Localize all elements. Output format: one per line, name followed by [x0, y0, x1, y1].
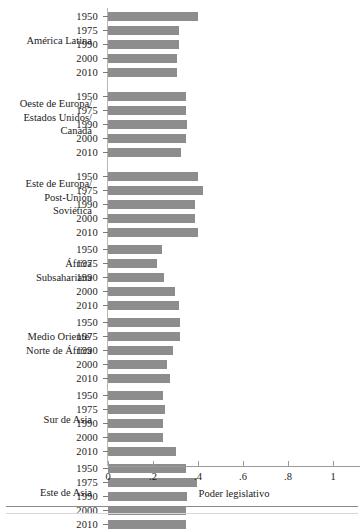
bar-row: 2010 [0, 518, 364, 532]
x-tick [243, 461, 244, 467]
bar-row: 1950 [0, 90, 364, 104]
year-label: 2010 [38, 372, 98, 386]
bar [108, 318, 180, 327]
bar-row: 2010 [0, 445, 364, 459]
bar-group: Medio Oriente/ Norte de África 1950 1975… [0, 316, 364, 386]
year-label: 1975 [38, 184, 98, 198]
bar-row: 1975 [0, 104, 364, 118]
bar [108, 520, 186, 529]
year-label: 2010 [38, 66, 98, 80]
bar-row: 1975 [0, 24, 364, 38]
year-label: 1975 [38, 330, 98, 344]
bar [108, 40, 179, 49]
x-tick [288, 461, 289, 467]
bar-row: 1975 [0, 330, 364, 344]
bar [108, 106, 186, 115]
year-label: 1990 [38, 118, 98, 132]
bar [108, 214, 195, 223]
bar-row: 2000 [0, 132, 364, 146]
bar-group: Sur de Asia 1950 1975 1990 2000 [0, 389, 364, 459]
bar-row: 2010 [0, 226, 364, 240]
bar-group: Este de Europa/ Post-Unión Soviética 195… [0, 170, 364, 240]
x-tick-label: .8 [268, 470, 308, 483]
year-label: 2000 [38, 132, 98, 146]
bar [108, 301, 179, 310]
bar [108, 374, 170, 383]
bar-row: 1990 [0, 417, 364, 431]
bar [108, 12, 198, 21]
bar-row: 1990 [0, 344, 364, 358]
year-label: 1975 [38, 24, 98, 38]
bar [108, 419, 163, 428]
bar-row: 2010 [0, 146, 364, 160]
bar [108, 346, 173, 355]
bar [108, 68, 177, 77]
bar-row: 2000 [0, 431, 364, 445]
year-label: 1990 [38, 417, 98, 431]
bar-row: 1990 [0, 271, 364, 285]
bar-row: 2000 [0, 212, 364, 226]
year-label: 2010 [38, 299, 98, 313]
year-label: 1950 [38, 389, 98, 403]
bar [108, 54, 177, 63]
x-tick [198, 461, 199, 467]
bar [108, 391, 163, 400]
x-tick [333, 461, 334, 467]
bar [108, 134, 186, 143]
bar-group: Oeste de Europa/ Estados Unidos/ Canadá … [0, 90, 364, 160]
year-label: 1990 [38, 490, 98, 504]
year-label: 2000 [38, 212, 98, 226]
x-tick-label: .4 [178, 470, 218, 483]
bar [108, 447, 176, 456]
bar [108, 120, 187, 129]
year-label: 1975 [38, 104, 98, 118]
bar [108, 148, 181, 157]
bar [108, 186, 203, 195]
bar-row: 1990 [0, 198, 364, 212]
year-label: 2010 [38, 518, 98, 532]
bar [108, 273, 164, 282]
year-label: 2000 [38, 285, 98, 299]
bar-row: 1975 [0, 403, 364, 417]
year-label: 1975 [38, 257, 98, 271]
footer-divider-secondary [6, 513, 358, 514]
year-label: 1950 [38, 316, 98, 330]
bar [108, 405, 165, 414]
bar [108, 433, 163, 442]
year-label: 2000 [38, 358, 98, 372]
year-label: 1975 [38, 403, 98, 417]
x-tick [108, 461, 109, 467]
bar [108, 332, 180, 341]
bar [108, 200, 195, 209]
bar [108, 172, 198, 181]
bar-row: 1950 [0, 389, 364, 403]
bar [108, 360, 167, 369]
x-tick [153, 461, 154, 467]
year-label: 1950 [38, 243, 98, 257]
year-label: 1950 [38, 170, 98, 184]
bar-row: 2000 [0, 52, 364, 66]
bar-row: 2000 [0, 358, 364, 372]
bar-row: 1950 [0, 170, 364, 184]
x-tick-label: .6 [223, 470, 263, 483]
year-label: 1990 [38, 344, 98, 358]
bar-row: 2010 [0, 372, 364, 386]
bar-row: 1950 [0, 243, 364, 257]
year-label: 2010 [38, 445, 98, 459]
bar-group: África Subsahariana 1950 1975 1990 2000 [0, 243, 364, 313]
year-label: 1950 [38, 90, 98, 104]
bar-row: 1950 [0, 316, 364, 330]
bar-row: 1990 [0, 118, 364, 132]
year-label: 2000 [38, 431, 98, 445]
x-axis-title: Poder legislativo [108, 487, 360, 500]
bar [108, 228, 198, 237]
bar-row: 1975 [0, 184, 364, 198]
year-label: 1950 [38, 10, 98, 24]
footer-divider [6, 506, 358, 507]
year-label: 1990 [38, 38, 98, 52]
year-label: 2010 [38, 226, 98, 240]
bar-row: 2000 [0, 285, 364, 299]
year-label: 2010 [38, 146, 98, 160]
